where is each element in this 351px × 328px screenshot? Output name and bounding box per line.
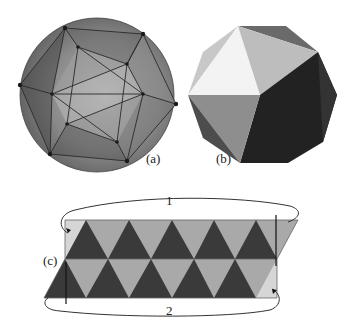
panel-a-label: (a): [146, 151, 160, 166]
panel-b-label: (b): [216, 151, 231, 166]
arc-2-label: 2: [166, 303, 173, 318]
panel-c-strip: 1 2 (c): [43, 193, 298, 318]
panel-b-icosahedron: (b): [188, 26, 337, 166]
figure-canvas: (a) (b): [0, 0, 351, 328]
arc-1-label: 1: [166, 193, 173, 208]
panel-c-label: (c): [43, 253, 57, 268]
panel-a-sphere-icosahedron: (a): [18, 18, 178, 172]
